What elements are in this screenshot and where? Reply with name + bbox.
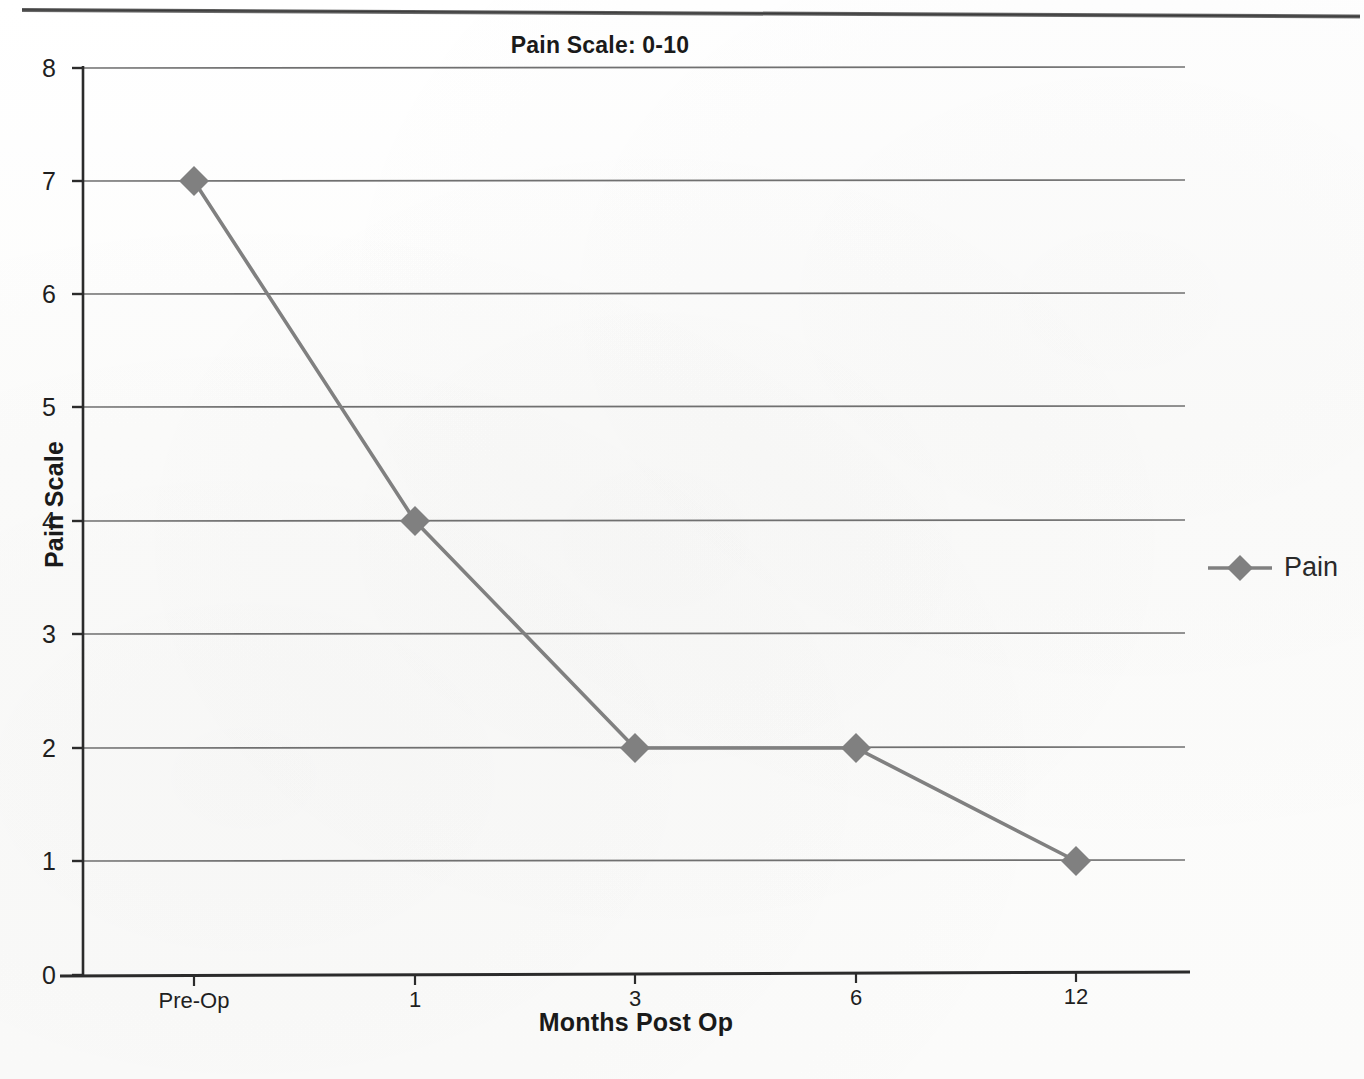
x-tick-label-12: 12 xyxy=(986,984,1166,1010)
chart-legend: Pain xyxy=(1206,552,1338,583)
data-point-pre-op[interactable] xyxy=(179,166,209,196)
gridline-8 xyxy=(82,67,1185,68)
y-tick-label-1: 1 xyxy=(8,847,56,876)
y-tick-marks xyxy=(72,68,83,975)
diamond-marker-icon xyxy=(1206,553,1274,583)
gridline-7 xyxy=(82,180,1185,181)
x-axis-title: Months Post Op xyxy=(82,1008,1190,1037)
y-tick-label-8: 8 xyxy=(8,54,56,83)
y-tick-label-0: 0 xyxy=(8,961,56,990)
gridline-6 xyxy=(82,293,1185,294)
data-point-6[interactable] xyxy=(841,733,871,763)
gridline-3 xyxy=(82,633,1185,634)
legend-item-label: Pain xyxy=(1284,552,1338,583)
chart-plot-svg xyxy=(0,0,1364,1079)
y-tick-label-7: 7 xyxy=(8,167,56,196)
y-axis-title: Pain Scale xyxy=(40,405,69,605)
gridline-1 xyxy=(82,860,1185,861)
y-tick-label-3: 3 xyxy=(8,620,56,649)
data-point-12[interactable] xyxy=(1061,846,1091,876)
line-chart: Pain Scale: 0-10 xyxy=(0,0,1364,1079)
y-tick-label-6: 6 xyxy=(8,280,56,309)
x-axis-spine xyxy=(60,972,1190,976)
y-tick-label-2: 2 xyxy=(8,734,56,763)
gridline-4 xyxy=(82,520,1185,521)
gridline-5 xyxy=(82,406,1185,407)
scanned-page: Pain Scale: 0-10 xyxy=(0,0,1364,1079)
